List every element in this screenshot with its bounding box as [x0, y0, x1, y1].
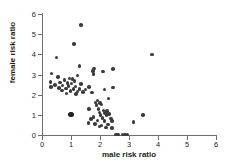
y-tick: [38, 115, 42, 116]
y-tick-label: 0: [24, 131, 36, 140]
data-point: [50, 72, 54, 76]
data-point: [64, 87, 68, 91]
x-tick-label: 4: [151, 140, 165, 149]
data-point: [100, 103, 104, 107]
y-tick-label: 5: [24, 30, 36, 39]
data-point: [56, 75, 60, 79]
x-axis-title: male risk ratio: [42, 150, 216, 159]
data-point: [78, 64, 82, 68]
data-point: [72, 42, 76, 46]
data-point: [93, 122, 97, 126]
x-tick-label: 5: [180, 140, 194, 149]
data-point: [92, 72, 96, 76]
data-point: [98, 125, 102, 129]
data-point: [111, 67, 115, 71]
data-point: [49, 80, 53, 84]
x-tick-label: 1: [64, 140, 78, 149]
data-point: [87, 121, 91, 125]
y-tick: [38, 95, 42, 96]
data-point: [111, 86, 115, 90]
y-tick-label: 6: [24, 10, 36, 19]
data-point: [110, 119, 114, 123]
data-point: [87, 85, 91, 89]
y-tick: [38, 34, 42, 35]
data-point: [68, 112, 73, 117]
x-tick-label: 3: [122, 140, 136, 149]
data-point: [150, 53, 154, 57]
y-tick-label: 2: [24, 91, 36, 100]
data-point: [74, 92, 78, 96]
data-point: [79, 23, 83, 27]
data-point: [79, 82, 83, 86]
y-tick-label: 4: [24, 50, 36, 59]
scatter-chart: 0123456 0123456 male risk ratio female r…: [0, 0, 231, 168]
data-point: [87, 107, 91, 111]
data-point: [104, 126, 108, 130]
data-point: [73, 79, 77, 83]
data-point: [70, 82, 74, 86]
data-point: [72, 87, 76, 91]
data-point: [76, 74, 80, 78]
data-point: [103, 119, 107, 123]
data-point: [141, 113, 145, 117]
data-point: [101, 70, 105, 74]
data-point: [107, 97, 111, 101]
data-point: [103, 88, 107, 92]
y-tick-label: 1: [24, 111, 36, 120]
data-point: [105, 113, 109, 117]
x-tick-label: 0: [35, 140, 49, 149]
y-tick: [38, 54, 42, 55]
data-point: [132, 120, 136, 124]
y-tick: [38, 14, 42, 15]
data-point: [95, 103, 99, 107]
data-point: [110, 126, 114, 130]
data-point: [65, 92, 69, 96]
data-point: [69, 89, 73, 93]
y-axis-title: female risk ratio: [8, 17, 17, 89]
data-point: [81, 90, 85, 94]
data-point: [49, 85, 53, 89]
y-tick: [38, 75, 42, 76]
x-tick-label: 2: [93, 140, 107, 149]
data-point: [60, 89, 64, 93]
y-tick-label: 3: [24, 71, 36, 80]
data-point: [55, 56, 59, 60]
data-point: [90, 91, 94, 95]
x-tick-label: 6: [209, 140, 223, 149]
